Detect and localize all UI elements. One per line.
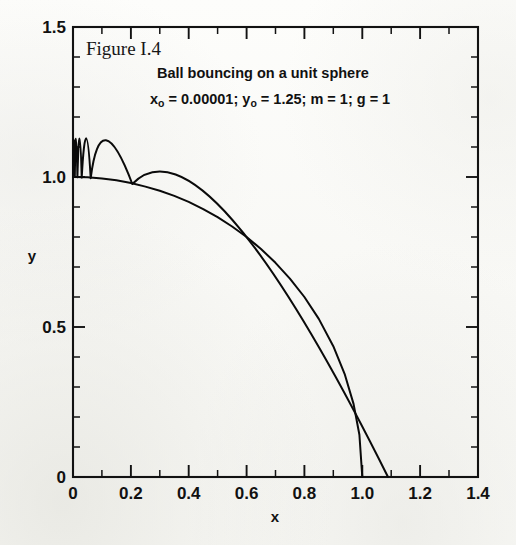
param-mid-text: = 0.00001; y — [165, 91, 251, 107]
figure-page: 0 0.2 0.4 0.6 0.8 1.0 1.2 1.4 0 0.5 1.0 … — [0, 0, 516, 545]
y-axis-ticks-right — [466, 57, 478, 447]
chart-title: Ball bouncing on a unit sphere — [157, 65, 369, 81]
param-tail-text: = 1.25; m = 1; g = 1 — [257, 91, 390, 107]
x-tick-labels: 0 0.2 0.4 0.6 0.8 1.0 1.2 1.4 — [68, 484, 490, 503]
x-tick-label-4: 0.8 — [293, 484, 317, 503]
x-tick-label-5: 1.0 — [350, 484, 374, 503]
x-tick-label-2: 0.4 — [177, 484, 201, 503]
param-x-symbol: x — [150, 91, 158, 107]
y-tick-label-0: 0 — [57, 468, 66, 487]
y-axis-title: y — [28, 247, 37, 264]
x-tick-label-6: 1.2 — [408, 484, 432, 503]
figure-label: Figure I.4 — [86, 38, 161, 59]
x-tick-label-1: 0.2 — [119, 484, 143, 503]
y-tick-label-3: 1.5 — [42, 18, 66, 37]
x-axis-ticks-bottom — [73, 465, 478, 477]
y-axis-ticks-left — [73, 27, 85, 477]
x-tick-label-7: 1.4 — [466, 484, 490, 503]
x-tick-label-0: 0 — [68, 484, 77, 503]
ball-trajectory-curve — [73, 138, 388, 477]
y-tick-labels: 0 0.5 1.0 1.5 — [42, 18, 66, 487]
x-tick-label-3: 0.6 — [235, 484, 259, 503]
x-axis-title: x — [271, 508, 280, 525]
y-tick-label-2: 1.0 — [42, 168, 66, 187]
bouncing-ball-chart: 0 0.2 0.4 0.6 0.8 1.0 1.2 1.4 0 0.5 1.0 … — [0, 0, 516, 545]
y-tick-label-1: 0.5 — [42, 318, 66, 337]
unit-sphere-curve — [73, 177, 362, 477]
chart-parameters: xo = 0.00001; yo = 1.25; m = 1; g = 1 — [150, 91, 390, 109]
